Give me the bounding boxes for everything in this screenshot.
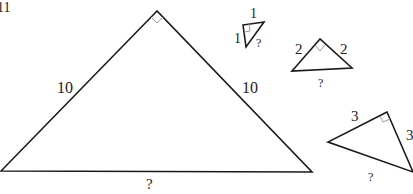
leg-label-right: 3: [406, 127, 413, 143]
leg-label-top: 1: [250, 6, 257, 21]
hypotenuse-label: ?: [146, 176, 153, 192]
triangle-tiny: 1 1 ?: [234, 6, 264, 50]
leg-label-left: 2: [295, 41, 303, 57]
isosceles-right-triangles-figure: 11 10 10 ? 1 1 ? 2 2 ? 3 3 ?: [0, 0, 413, 194]
leg-label-top: 3: [351, 108, 359, 124]
leg-label-left: 1: [234, 31, 241, 46]
leg-label-left: 10: [57, 79, 73, 96]
triangle-medium: 2 2 ?: [292, 39, 352, 90]
triangle-large: 10 10 ?: [1, 11, 312, 192]
problem-number: 11: [0, 0, 10, 15]
triangle-rotated-outline: [328, 112, 413, 172]
triangle-rotated: 3 3 ?: [328, 108, 413, 184]
hypotenuse-label: ?: [368, 170, 373, 184]
right-angle-mark-icon: [151, 17, 163, 23]
triangle-large-outline: [1, 11, 312, 172]
right-angle-mark-icon: [315, 45, 325, 51]
hypotenuse-label: ?: [318, 76, 323, 90]
leg-label-right: 2: [340, 41, 348, 57]
leg-label-right: 10: [242, 79, 258, 96]
hypotenuse-label: ?: [256, 36, 261, 50]
